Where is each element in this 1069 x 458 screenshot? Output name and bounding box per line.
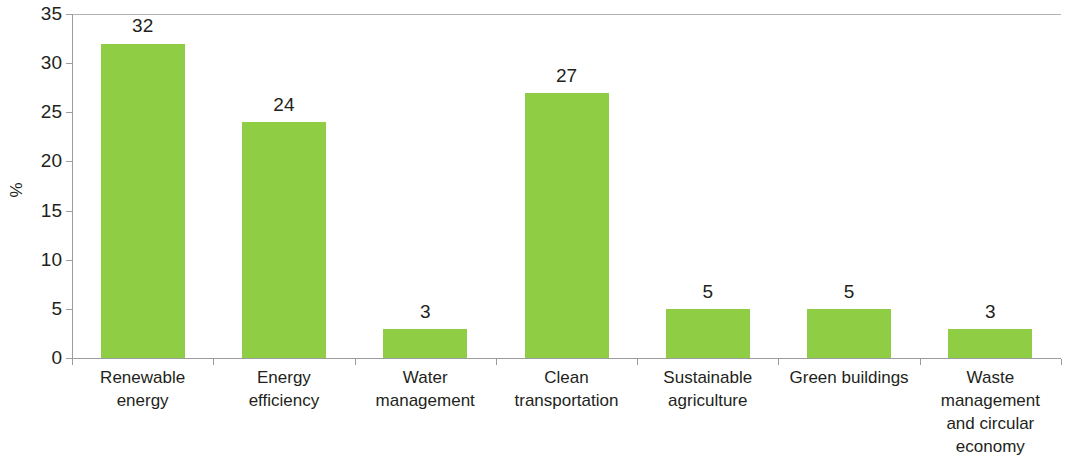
y-axis-tick-label: 5 <box>4 299 62 318</box>
x-axis-category-label-line: Water <box>355 366 496 389</box>
y-axis-tick-label: 35 <box>4 4 62 23</box>
x-axis-category-label-line: management <box>355 389 496 412</box>
y-axis-tick-label: 0 <box>4 348 62 367</box>
x-axis-category-label-line: Waste <box>920 366 1061 389</box>
x-axis-tick <box>778 359 779 365</box>
x-axis-category-label: Green buildings <box>778 366 919 389</box>
x-axis-category-label-line: Clean <box>496 366 637 389</box>
y-axis-title-text: % <box>7 182 27 197</box>
x-axis-category-label: Cleantransportation <box>496 366 637 412</box>
x-axis-category-label-line: and circular <box>920 412 1061 435</box>
x-axis-tick <box>920 359 921 365</box>
x-axis-category-label-line: management <box>920 389 1061 412</box>
x-axis-category-label-line: Energy <box>213 366 354 389</box>
bar <box>101 44 185 359</box>
x-axis-category-label: Renewableenergy <box>72 366 213 412</box>
x-axis-category-label: Sustainableagriculture <box>637 366 778 412</box>
bar-value-label: 3 <box>355 302 496 321</box>
bar-value-label: 27 <box>496 66 637 85</box>
x-axis-category-label-line: Green buildings <box>778 366 919 389</box>
x-axis-tick <box>355 359 356 365</box>
x-axis-tick <box>1061 359 1062 365</box>
x-axis-category-label: Wastemanagementand circulareconomy <box>920 366 1061 458</box>
x-axis-category-label-line: economy <box>920 435 1061 458</box>
x-axis-category-label-line: transportation <box>496 389 637 412</box>
bar <box>807 309 891 358</box>
bar <box>948 329 1032 358</box>
bar-value-label: 3 <box>920 302 1061 321</box>
x-axis-tick <box>637 359 638 365</box>
x-axis-category-label-line: energy <box>72 389 213 412</box>
bar <box>383 329 467 358</box>
x-axis-category-label-line: Renewable <box>72 366 213 389</box>
x-axis-category-label-line: efficiency <box>213 389 354 412</box>
bar-value-label: 5 <box>778 282 919 301</box>
y-axis-tick-label: 20 <box>4 151 62 170</box>
x-axis-category-label-line: Sustainable <box>637 366 778 389</box>
x-axis-line <box>72 358 1061 359</box>
bar-value-label: 32 <box>72 16 213 35</box>
y-axis-tick-label: 30 <box>4 53 62 72</box>
bar <box>525 93 609 358</box>
x-axis-tick <box>72 359 73 365</box>
x-axis-category-label: Watermanagement <box>355 366 496 412</box>
x-axis-tick <box>213 359 214 365</box>
x-axis-category-label: Energyefficiency <box>213 366 354 412</box>
y-axis-tick-label: 25 <box>4 102 62 121</box>
bar <box>242 122 326 358</box>
bar <box>666 309 750 358</box>
x-axis-category-label-line: agriculture <box>637 389 778 412</box>
bar-value-label: 5 <box>637 282 778 301</box>
x-axis-tick <box>496 359 497 365</box>
y-axis-tick-label: 15 <box>4 201 62 220</box>
y-axis-tick-label: 10 <box>4 250 62 269</box>
bar-value-label: 24 <box>213 95 354 114</box>
